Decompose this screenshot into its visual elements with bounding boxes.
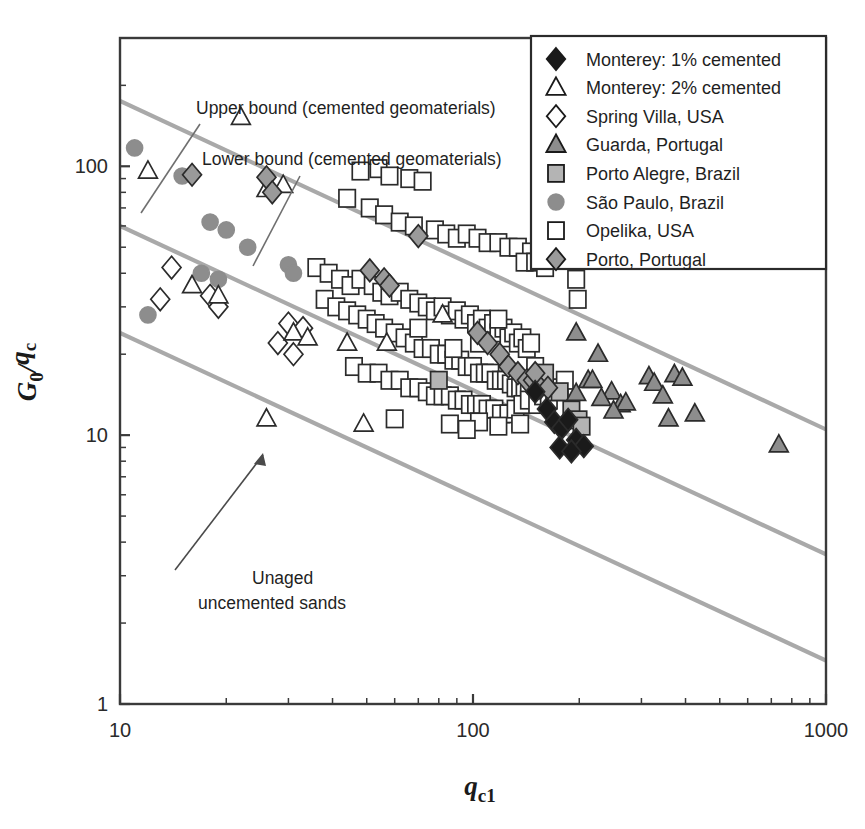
- marker-square: [414, 173, 430, 190]
- x-tick-label: 10: [109, 719, 131, 741]
- marker-square: [339, 190, 355, 207]
- leader-unaged-arrowhead: [254, 453, 266, 466]
- y-tick-label: 100: [75, 155, 108, 177]
- marker-square: [431, 372, 447, 389]
- marker-triangle: [257, 409, 276, 426]
- x-axis-ticks: [120, 694, 826, 704]
- leader-unaged: [175, 455, 263, 570]
- annotation-upper-bound: Upper bound (cemented geomaterials): [196, 98, 496, 118]
- marker-circle: [193, 265, 209, 281]
- legend-label: Monterey: 1% cemented: [586, 50, 781, 70]
- marker-square: [459, 421, 475, 438]
- marker-triangle: [659, 409, 678, 426]
- marker-square: [381, 167, 397, 184]
- y-tick-label: 1: [97, 693, 108, 715]
- x-axis-title: qc1: [464, 771, 495, 806]
- marker-circle: [240, 239, 256, 255]
- marker-circle: [140, 307, 156, 323]
- marker-diamond: [284, 343, 303, 366]
- marker-triangle: [769, 435, 788, 452]
- y-axis-title: G0/qc: [5, 343, 47, 401]
- marker-diamond: [268, 332, 287, 355]
- marker-square: [410, 319, 426, 336]
- legend-label: Spring Villa, USA: [586, 107, 724, 127]
- y-axis-ticks: [120, 38, 130, 704]
- marker-circle: [548, 194, 564, 210]
- y-tick-labels: 110100: [75, 155, 108, 715]
- marker-triangle: [589, 344, 608, 361]
- marker-triangle: [685, 404, 704, 421]
- marker-square: [442, 415, 458, 432]
- figure-root: 101001000110100qc1G0/qcUpper bound (ceme…: [0, 0, 865, 829]
- marker-square: [376, 206, 392, 223]
- marker-square: [490, 417, 506, 434]
- legend-label: Porto, Portugal: [586, 250, 706, 270]
- annotation-lower-bound: Lower bound (cemented geomaterials): [202, 149, 502, 169]
- x-tick-label: 100: [456, 719, 489, 741]
- scatter-chart: 101001000110100qc1G0/qcUpper bound (ceme…: [0, 0, 865, 829]
- marker-square: [570, 291, 586, 308]
- marker-triangle: [567, 323, 586, 340]
- legend-label: Monterey: 2% cemented: [586, 78, 781, 98]
- marker-square: [523, 334, 539, 351]
- marker-square: [445, 340, 461, 357]
- legend-label: Porto Alegre, Brazil: [586, 164, 740, 184]
- marker-square: [386, 410, 402, 427]
- annotation-unaged-line2: uncemented sands: [198, 593, 346, 613]
- marker-circle: [285, 265, 301, 281]
- legend-label: São Paulo, Brazil: [586, 193, 724, 213]
- marker-circle: [218, 222, 234, 238]
- y-axis-title-text: G0/qc: [5, 343, 47, 401]
- marker-square: [548, 165, 564, 182]
- x-axis-title-text: qc1: [464, 771, 495, 806]
- marker-diamond: [162, 256, 181, 279]
- legend-label: Guarda, Portugal: [586, 135, 723, 155]
- marker-circle: [202, 214, 218, 230]
- marker-square: [548, 222, 564, 239]
- marker-square: [568, 271, 584, 288]
- marker-diamond: [151, 288, 170, 311]
- series-guarda-portugal: [567, 323, 788, 452]
- marker-square: [512, 415, 528, 432]
- marker-triangle: [139, 161, 158, 178]
- legend-label: Opelika, USA: [586, 221, 694, 241]
- annotation-unaged-line1: Unaged: [252, 568, 313, 588]
- marker-square: [490, 310, 506, 327]
- x-tick-labels: 101001000: [109, 719, 848, 741]
- marker-circle: [127, 140, 143, 156]
- x-tick-label: 1000: [804, 719, 849, 741]
- marker-triangle: [354, 414, 373, 431]
- y-tick-label: 10: [86, 424, 108, 446]
